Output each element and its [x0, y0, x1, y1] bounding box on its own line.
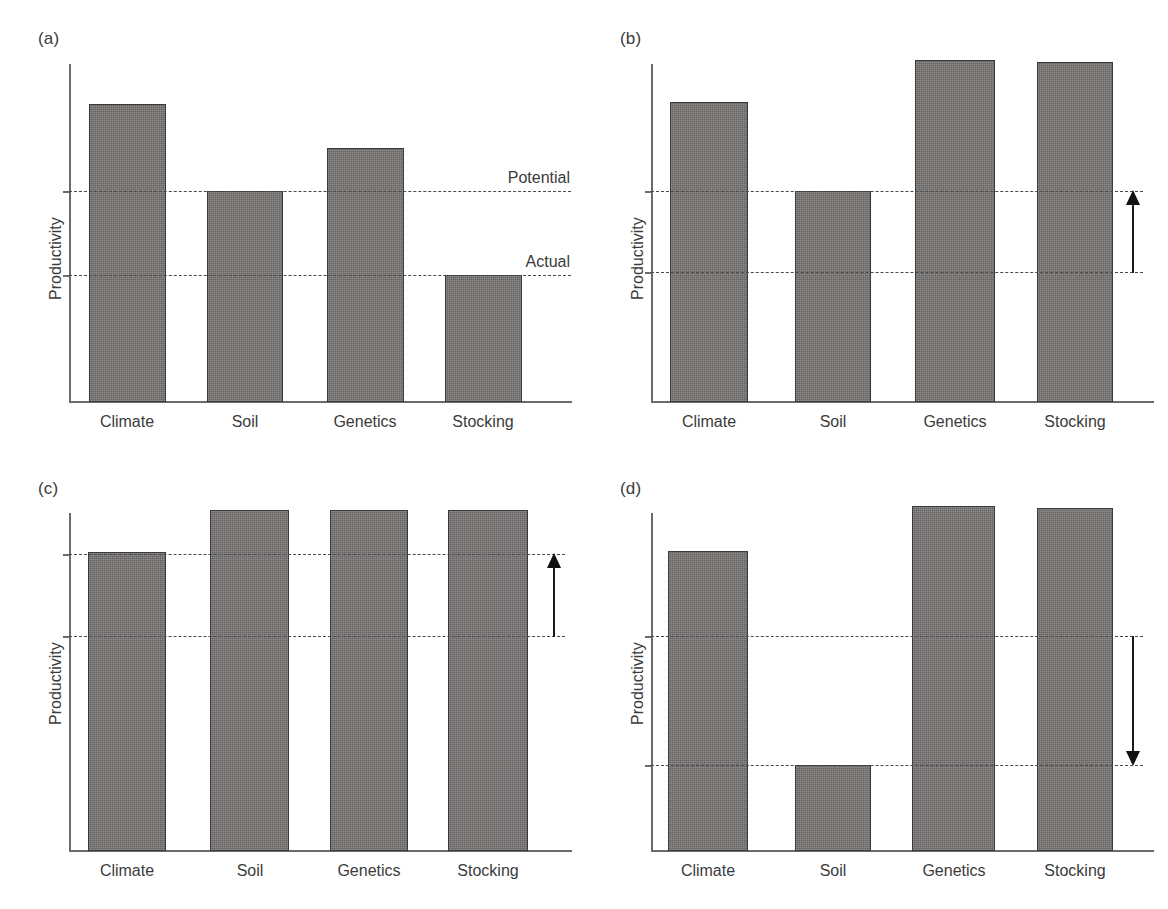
reference-label-actual: Actual — [440, 253, 570, 271]
reference-line-actual — [69, 275, 571, 276]
category-label-climate: Climate — [67, 862, 187, 880]
category-label-soil: Soil — [773, 413, 893, 431]
reference-line-upper — [69, 554, 565, 555]
category-label-climate: Climate — [67, 413, 187, 431]
category-label-climate: Climate — [649, 413, 769, 431]
change-arrow-head-up-icon — [547, 553, 561, 568]
bar-soil — [210, 510, 289, 851]
change-arrow-head-down-icon — [1126, 751, 1140, 766]
panel-d-y-axis-label: Productivity — [629, 642, 647, 725]
panel-b-y-axis — [651, 64, 653, 403]
bar-climate — [88, 552, 166, 851]
change-arrow-shaft — [1132, 196, 1134, 273]
bar-genetics — [915, 60, 995, 402]
panel-c-y-axis-label: Productivity — [47, 642, 65, 725]
reference-label-potential: Potential — [440, 169, 570, 187]
panel-c-y-axis — [69, 513, 71, 851]
bar-stocking — [445, 275, 522, 402]
panel-d-y-axis — [651, 513, 653, 851]
panel-b: (b) Productivity Climate Soil Genetics S… — [584, 0, 1168, 455]
bar-stocking — [1037, 508, 1113, 851]
reference-line-potential — [651, 191, 1143, 192]
category-label-stocking: Stocking — [428, 862, 548, 880]
bar-climate — [670, 102, 748, 402]
category-label-climate: Climate — [648, 862, 768, 880]
panel-a: (a) Productivity Potential Actual Climat… — [0, 0, 584, 455]
bar-stocking — [448, 510, 528, 851]
panel-b-y-axis-label: Productivity — [629, 217, 647, 300]
panel-d: (d) Productivity Climate Soil Genetics S… — [584, 455, 1168, 909]
change-arrow-head-up-icon — [1126, 190, 1140, 205]
panel-a-label: (a) — [38, 29, 59, 49]
category-label-soil: Soil — [773, 862, 893, 880]
panel-a-y-axis-label: Productivity — [47, 217, 65, 300]
category-label-genetics: Genetics — [894, 862, 1014, 880]
panel-a-y-axis — [69, 64, 71, 403]
category-label-stocking: Stocking — [1015, 862, 1135, 880]
category-label-soil: Soil — [185, 413, 305, 431]
bar-climate — [89, 104, 166, 402]
bar-soil — [795, 765, 871, 851]
change-arrow-shaft — [553, 559, 555, 637]
change-arrow-shaft — [1132, 636, 1134, 752]
panel-d-label: (d) — [620, 479, 641, 499]
figure-four-panel-bar-charts: (a) Productivity Potential Actual Climat… — [0, 0, 1168, 909]
reference-line-lower — [69, 636, 565, 637]
category-label-genetics: Genetics — [895, 413, 1015, 431]
category-label-genetics: Genetics — [309, 862, 429, 880]
reference-line-actual — [651, 272, 1143, 273]
bar-soil — [795, 191, 871, 402]
category-label-stocking: Stocking — [1015, 413, 1135, 431]
bar-climate — [668, 551, 748, 851]
category-label-stocking: Stocking — [423, 413, 543, 431]
bar-stocking — [1037, 62, 1113, 402]
category-label-genetics: Genetics — [305, 413, 425, 431]
reference-line-lower — [651, 765, 1143, 766]
panel-c: (c) Productivity Climate Soil Genetics S… — [0, 455, 584, 909]
bar-soil — [207, 191, 283, 402]
reference-line-potential — [69, 191, 571, 192]
reference-line-upper — [651, 636, 1143, 637]
bar-genetics — [330, 510, 408, 851]
bar-genetics — [912, 506, 995, 851]
panel-b-label: (b) — [620, 29, 641, 49]
category-label-soil: Soil — [190, 862, 310, 880]
panel-c-label: (c) — [38, 479, 58, 499]
